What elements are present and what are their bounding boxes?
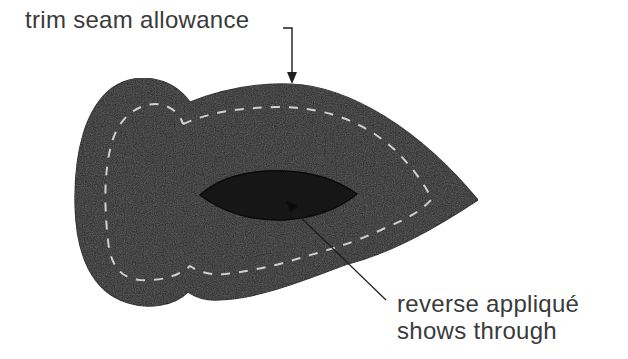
reverse-applique-label-line2: shows through bbox=[397, 317, 579, 344]
trim-arrow bbox=[283, 28, 297, 84]
reverse-applique-label: reverse appliqué shows through bbox=[397, 290, 579, 344]
trim-seam-allowance-label: trim seam allowance bbox=[25, 6, 249, 34]
arrowhead-icon bbox=[287, 72, 297, 84]
reverse-applique-label-line1: reverse appliqué bbox=[397, 290, 579, 317]
